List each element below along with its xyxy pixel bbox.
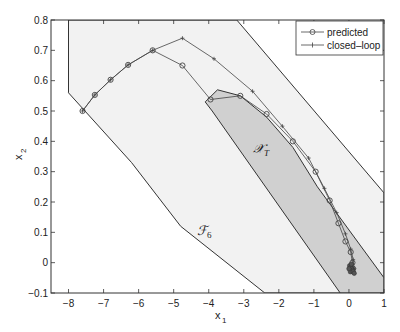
x-tick-label: −5 bbox=[168, 298, 180, 309]
x-axis-label: x 1 bbox=[215, 309, 227, 325]
x-tick-label: −1 bbox=[308, 298, 320, 309]
svg-text:x: x bbox=[12, 154, 24, 160]
legend: predicted closed–loop bbox=[296, 21, 383, 55]
y-tick-label: −0.1 bbox=[28, 288, 48, 299]
x-tick-label: 0 bbox=[346, 298, 352, 309]
x-tick-label: −6 bbox=[133, 298, 145, 309]
svg-text:6: 6 bbox=[207, 230, 212, 240]
y-tick-label: 0.4 bbox=[34, 136, 48, 147]
x-tick-label: −2 bbox=[273, 298, 285, 309]
svg-text:predicted: predicted bbox=[327, 27, 368, 38]
svg-text:closed–loop: closed–loop bbox=[327, 40, 381, 51]
y-tick-label: 0.6 bbox=[34, 75, 48, 86]
x-tick-label: 1 bbox=[381, 298, 387, 309]
y-tick-label: 0.2 bbox=[34, 197, 48, 208]
x-tick-label: −4 bbox=[203, 298, 215, 309]
x-tick-label: −3 bbox=[238, 298, 250, 309]
x-tick-label: −7 bbox=[98, 298, 110, 309]
svg-text:2: 2 bbox=[19, 148, 28, 153]
y-tick-label: 0.7 bbox=[34, 45, 48, 56]
svg-text:x: x bbox=[215, 309, 221, 321]
y-tick-label: 0.1 bbox=[34, 227, 48, 238]
y-tick-label: 0.3 bbox=[34, 166, 48, 177]
y-tick-label: 0.8 bbox=[34, 15, 48, 26]
y-axis-label: x 2 bbox=[12, 148, 28, 160]
x-tick-label: −8 bbox=[63, 298, 75, 309]
svg-text:1: 1 bbox=[222, 316, 227, 325]
y-tick-label: 0 bbox=[42, 257, 48, 268]
chart-canvas: −8−7−6−5−4−3−2−101−0.100.10.20.30.40.50.… bbox=[0, 0, 400, 332]
y-tick-label: 0.5 bbox=[34, 106, 48, 117]
